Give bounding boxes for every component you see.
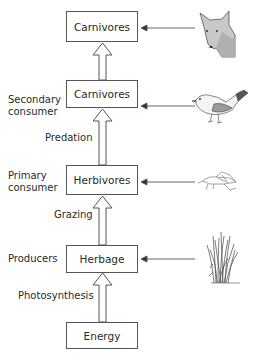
organism-arrows: [141, 25, 195, 262]
box-label: Herbage: [80, 253, 125, 265]
grazing-label: Grazing: [54, 209, 93, 221]
fox-head-icon: [200, 11, 235, 57]
predation-label: Predation: [45, 132, 93, 144]
herbage-box: Herbage: [66, 245, 138, 273]
producers-label: Producers: [8, 253, 58, 265]
carnivores-top-box: Carnivores: [66, 11, 138, 42]
box-label: Carnivores: [74, 21, 130, 33]
up-arrow-icon: [93, 273, 112, 322]
box-label: Herbivores: [74, 174, 131, 186]
primary-consumer-label: Primary consumer: [8, 170, 58, 194]
left-arrow-icon: [141, 256, 147, 262]
bird-icon: [192, 90, 248, 123]
grasshopper-icon: [198, 172, 236, 190]
label-line: Primary: [8, 170, 58, 182]
energy-box: Energy: [66, 322, 138, 349]
photosynthesis-label: Photosynthesis: [18, 290, 94, 302]
herbivores-box: Herbivores: [66, 165, 138, 195]
carnivores-secondary-box: Carnivores: [66, 80, 138, 108]
box-label: Energy: [84, 330, 121, 342]
left-arrow-icon: [141, 103, 147, 109]
secondary-consumer-label: Secondary consumer: [8, 94, 61, 118]
label-line: consumer: [8, 106, 61, 118]
label-line: Secondary: [8, 94, 61, 106]
up-arrow-icon: [93, 109, 112, 165]
left-arrow-icon: [141, 25, 147, 31]
box-label: Carnivores: [74, 88, 130, 100]
label-line: consumer: [8, 182, 58, 194]
grass-icon: [207, 232, 240, 283]
left-arrow-icon: [141, 179, 147, 185]
up-arrow-icon: [93, 196, 112, 245]
up-arrow-icon: [93, 43, 112, 80]
